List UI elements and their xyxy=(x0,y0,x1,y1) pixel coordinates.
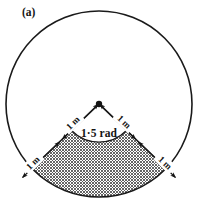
panel-label: (a) xyxy=(22,6,36,19)
angle-label: 1·5 rad xyxy=(81,127,118,139)
figure-container: 1 m 1 m 1 m 1 m 1·5 rad (a) xyxy=(0,0,198,205)
geometry-diagram: 1 m 1 m 1 m 1 m 1·5 rad (a) xyxy=(0,0,198,205)
